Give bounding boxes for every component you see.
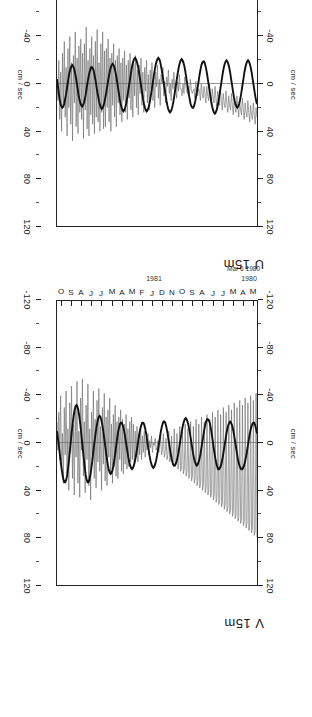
value-axis-tick: [258, 537, 263, 538]
value-axis-tick-label: -80: [265, 341, 275, 355]
value-axis-minor-tick: [258, 202, 261, 203]
time-axis-month-label: J: [99, 289, 103, 298]
time-axis-tick: [122, 300, 123, 306]
time-axis-month-label: M: [108, 287, 115, 296]
time-axis-tick: [112, 300, 113, 306]
value-axis-tick-label: 80: [22, 533, 32, 543]
value-axis-tick-label: -40: [22, 30, 32, 44]
time-axis-month-label: N: [169, 288, 175, 297]
time-axis-tick: [152, 300, 153, 306]
panel-u15m: cm / sec 12080400-40-80-120 12080400-40-…: [0, 0, 312, 265]
units-label-bottom: cm / sec: [289, 429, 298, 459]
value-axis-minor-tick: [258, 514, 261, 515]
value-axis-minor-tick: [258, 418, 261, 419]
value-axis-top: 12080400-40-80-120: [36, 300, 56, 586]
time-axis-tick: [253, 300, 254, 306]
value-axis-minor-tick: [36, 371, 39, 372]
value-axis-tick: [36, 537, 41, 538]
value-axis-minor-tick: [36, 323, 39, 324]
panel-v15m: cm / sec 12080400-40-80-120 12080400-40-…: [0, 266, 312, 624]
time-axis-tick: [172, 300, 173, 306]
time-axis-month-label: A: [79, 288, 84, 297]
time-axis-tick: [101, 300, 102, 306]
value-axis-tick: [258, 299, 263, 300]
time-axis-tick: [91, 300, 92, 306]
value-axis-tick-label: 120: [22, 219, 32, 235]
value-axis-tick: [36, 83, 41, 84]
value-axis-tick-label: -120: [22, 291, 32, 310]
time-axis-tick: [192, 300, 193, 306]
value-axis-tick: [36, 347, 41, 348]
value-axis-tick: [36, 35, 41, 36]
plot-frame-v15m: [56, 300, 258, 586]
panel-title-u15m: U 15m: [223, 257, 264, 272]
value-axis-tick: [258, 394, 263, 395]
value-axis-bottom: 12080400-40-80-120: [258, 0, 278, 227]
value-axis-tick-label: 0: [22, 81, 32, 86]
value-axis-tick: [36, 394, 41, 395]
time-axis-month-label: O: [58, 287, 64, 296]
time-axis-tick: [202, 300, 203, 306]
value-axis-tick: [258, 490, 263, 491]
time-axis-tick: [142, 300, 143, 306]
time-axis-month-label: D: [159, 288, 165, 297]
value-axis-tick: [258, 35, 263, 36]
panel-title-v15m: V 15m: [224, 616, 264, 631]
value-axis-tick: [258, 226, 263, 227]
time-axis-tick: [182, 300, 183, 306]
value-axis-minor-tick: [258, 155, 261, 156]
time-axis-month-label: M: [250, 287, 257, 296]
time-axis-month-label: J: [89, 289, 93, 298]
time-axis-tick: [233, 300, 234, 306]
value-axis-bottom: 12080400-40-80-120: [258, 300, 278, 586]
value-axis-tick-label: 80: [265, 533, 275, 543]
value-axis-tick: [258, 347, 263, 348]
time-axis-year-label: 1980: [241, 275, 257, 282]
value-axis-minor-tick: [258, 12, 261, 13]
time-axis-month-label: J: [221, 289, 225, 298]
value-axis-tick: [36, 490, 41, 491]
value-axis-tick-label: 0: [265, 81, 275, 86]
value-axis-minor-tick: [258, 561, 261, 562]
time-axis-month-label: S: [190, 288, 195, 297]
value-axis-minor-tick: [258, 107, 261, 108]
trace-svg-u15m: [57, 0, 257, 226]
value-axis-tick: [258, 131, 263, 132]
time-axis-year-label: 1981: [146, 275, 162, 282]
value-axis-tick: [36, 131, 41, 132]
time-axis-month-label: M: [229, 287, 236, 296]
value-axis-minor-tick: [258, 59, 261, 60]
time-axis-month-label: A: [119, 288, 124, 297]
value-axis-tick-label: 120: [22, 578, 32, 594]
value-axis-tick: [36, 299, 41, 300]
time-axis-v15m: OSAJJMAMFJDNOSAJJMAM19811980Mar 6 1980: [56, 270, 258, 300]
value-axis-tick: [258, 83, 263, 84]
time-axis-tick: [61, 300, 62, 306]
value-axis-minor-tick: [258, 466, 261, 467]
value-axis-tick-label: 40: [265, 485, 275, 495]
value-axis-tick: [36, 226, 41, 227]
value-axis-minor-tick: [36, 12, 39, 13]
time-axis-month-label: J: [150, 289, 154, 298]
value-axis-tick-label: 0: [265, 440, 275, 445]
figure: cm / sec 12080400-40-80-120 12080400-40-…: [0, 0, 312, 624]
value-axis-minor-tick: [36, 466, 39, 467]
value-axis-tick-label: 40: [265, 126, 275, 136]
time-axis-month-label: A: [240, 288, 245, 297]
time-axis-month-label: M: [128, 287, 135, 296]
time-axis-tick: [243, 300, 244, 306]
time-axis-month-label: O: [179, 287, 185, 296]
value-axis-tick-label: 120: [265, 578, 275, 594]
value-axis-minor-tick: [36, 418, 39, 419]
value-axis-minor-tick: [258, 371, 261, 372]
value-axis-minor-tick: [36, 107, 39, 108]
time-axis-month-label: F: [139, 288, 144, 297]
units-label-bottom: cm / sec: [289, 70, 298, 100]
time-axis-month-label: J: [211, 289, 215, 298]
rotated-figure-container: cm / sec 12080400-40-80-120 12080400-40-…: [0, 0, 312, 624]
value-axis-tick-label: -40: [22, 389, 32, 403]
value-axis-tick: [258, 178, 263, 179]
plot-frame-u15m: [56, 0, 258, 227]
time-axis-month-label: A: [200, 288, 205, 297]
value-axis-tick-label: 0: [22, 440, 32, 445]
